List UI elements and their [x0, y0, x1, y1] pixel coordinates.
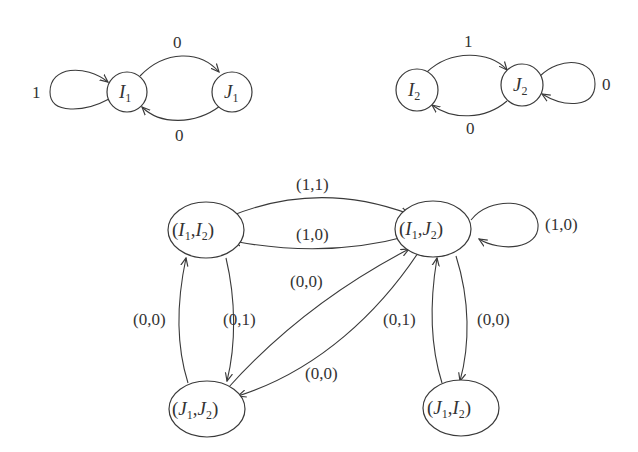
edge-label-J1J2-to-I1I2: (0,0)	[133, 310, 166, 329]
edge-J1J2-to-I1I2	[179, 258, 188, 383]
automaton-1: I1 J1 1 0 0	[32, 33, 252, 145]
state-I1-I2-label: (I1,I2)	[172, 219, 214, 243]
edge-J2-to-I2	[432, 101, 507, 116]
edge-label-I1-loop: 1	[32, 83, 41, 102]
edge-I1-to-J1	[140, 56, 219, 76]
edge-label-J1-to-I1: 0	[175, 126, 184, 145]
edge-label-J2-to-I2: 0	[466, 119, 475, 138]
diagram-canvas: I1 J1 1 0 0 I2 J2 1 0 0	[0, 0, 638, 452]
edge-label-J2-loop: 0	[602, 75, 611, 94]
state-diagram: I1 J1 1 0 0 I2 J2 1 0 0	[0, 0, 638, 452]
edge-J2-loop	[540, 63, 595, 104]
edge-label-I1J2-to-J1J2: (0,0)	[305, 364, 338, 383]
edge-label-I1J2-to-I1I2: (1,0)	[296, 225, 329, 244]
edge-label-J1J2-to-I1J2: (0,0)	[290, 272, 323, 291]
edge-I1J2-to-J1I2	[456, 256, 467, 381]
edge-label-I1-to-J1: 0	[173, 33, 182, 52]
state-J1-I2-label: (J1,I2)	[427, 397, 471, 421]
product-automaton: (I1,I2) (I1,J2) (J1,J2) (J1,I2) (1,1) (1…	[133, 175, 578, 437]
edge-label-I1J2-loop: (1,0)	[545, 215, 578, 234]
edge-label-I1I2-to-J1J2: (0,1)	[223, 310, 256, 329]
automaton-2: I2 J2 1 0 0	[396, 32, 611, 138]
edge-label-I1I2-to-I1J2: (1,1)	[296, 175, 329, 194]
edge-I1-loop	[50, 70, 109, 109]
edge-J1-to-I1	[142, 106, 220, 120]
edge-I1I2-to-I1J2	[231, 198, 409, 216]
state-I1-J2-label: (I1,J2)	[399, 218, 443, 242]
edge-label-J1I2-to-I1J2: (0,1)	[383, 310, 416, 329]
edge-label-I1J2-to-J1I2: (0,0)	[477, 310, 510, 329]
edge-J1I2-to-I1J2	[432, 258, 442, 383]
state-J1-J2-label: (J1,J2)	[172, 398, 218, 422]
edge-I1J2-loop	[471, 203, 538, 247]
edge-label-I2-to-J2: 1	[464, 32, 473, 51]
edge-I2-to-J2	[427, 55, 507, 72]
